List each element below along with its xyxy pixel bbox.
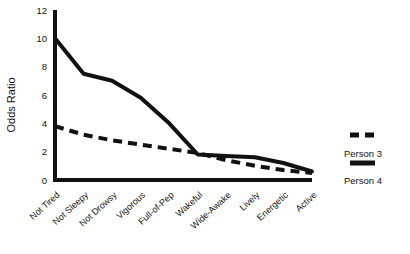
y-tick-label: 10 — [36, 33, 47, 44]
x-category-label: Lively — [238, 189, 262, 212]
y-tick-label: 4 — [42, 118, 47, 129]
x-category-label: Energetic — [255, 189, 290, 222]
x-axis-category-labels: Not TiredNot SleepyNot DrowsyVigorousFul… — [28, 189, 319, 230]
y-axis-title: Odds Ratio — [5, 77, 17, 132]
legend-label-person-3: Person 3 — [344, 148, 382, 159]
x-category-label: Active — [294, 190, 319, 214]
y-tick-label: 6 — [42, 90, 47, 101]
y-axis-tick-labels: 024681012 — [36, 5, 47, 186]
series-line-person-4 — [55, 38, 312, 171]
y-tick-label: 0 — [42, 175, 47, 186]
odds-ratio-line-chart: Odds Ratio 024681012 Not TiredNot Sleepy… — [0, 0, 410, 254]
legend-label-person-4: Person 4 — [344, 175, 382, 186]
chart-figure: Odds Ratio 024681012 Not TiredNot Sleepy… — [0, 0, 410, 254]
chart-legend: Person 3 Person 4 — [344, 135, 382, 186]
y-tick-label: 12 — [36, 5, 47, 16]
series-line-person-3 — [55, 126, 312, 173]
y-tick-label: 8 — [42, 61, 47, 72]
y-tick-label: 2 — [42, 146, 47, 157]
